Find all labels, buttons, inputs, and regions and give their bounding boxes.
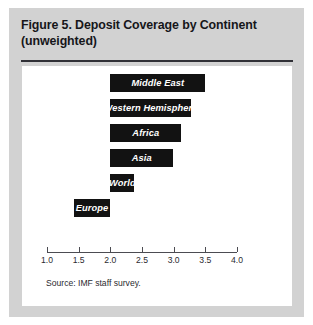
bar-label: Middle East bbox=[110, 74, 205, 92]
figure-title-area: Figure 5. Deposit Coverage by Continent … bbox=[21, 18, 293, 49]
bar-label: Europe bbox=[74, 199, 111, 217]
x-axis-tick-label: 2.5 bbox=[136, 255, 148, 265]
x-axis-tick bbox=[79, 247, 80, 252]
bar-europe: Europe bbox=[74, 199, 111, 217]
x-axis-tick-label: 3.5 bbox=[199, 255, 211, 265]
x-axis-tick bbox=[237, 247, 238, 252]
x-axis-tick-label: 1.0 bbox=[41, 255, 53, 265]
bar-label: Western Hemisphere bbox=[110, 99, 190, 117]
x-axis-tick-label: 3.0 bbox=[168, 255, 180, 265]
bar-africa: Africa bbox=[110, 124, 181, 142]
x-axis-tick-label: 2.0 bbox=[104, 255, 116, 265]
x-axis-tick bbox=[110, 247, 111, 252]
x-axis-line bbox=[47, 252, 237, 253]
figure-container: Figure 5. Deposit Coverage by Continent … bbox=[9, 8, 304, 317]
bar-asia: Asia bbox=[110, 149, 173, 167]
page-title: Figure 5. Deposit Coverage by Continent … bbox=[21, 18, 293, 49]
plot-area: Middle EastWestern HemisphereAfricaAsiaW… bbox=[22, 66, 292, 266]
figure-title-line-1: Figure 5. Deposit Coverage by Continent bbox=[21, 18, 257, 32]
bar-world: World bbox=[110, 174, 134, 192]
source-note: Source: IMF staff survey. bbox=[46, 278, 141, 288]
x-axis-tick-label: 1.5 bbox=[73, 255, 85, 265]
bar-label: World bbox=[110, 174, 134, 192]
title-divider bbox=[21, 60, 293, 62]
x-axis-tick-label: 4.0 bbox=[231, 255, 243, 265]
x-axis-tick bbox=[174, 247, 175, 252]
chart-panel: Middle EastWestern HemisphereAfricaAsiaW… bbox=[22, 66, 292, 306]
bar-western-hemisphere: Western Hemisphere bbox=[110, 99, 190, 117]
x-axis-tick bbox=[47, 247, 48, 252]
bar-middle-east: Middle East bbox=[110, 74, 205, 92]
x-axis-tick bbox=[142, 247, 143, 252]
figure-title-line-2: (unweighted) bbox=[21, 34, 97, 48]
bar-label: Africa bbox=[110, 124, 181, 142]
x-axis-tick bbox=[205, 247, 206, 252]
bar-label: Asia bbox=[110, 149, 173, 167]
